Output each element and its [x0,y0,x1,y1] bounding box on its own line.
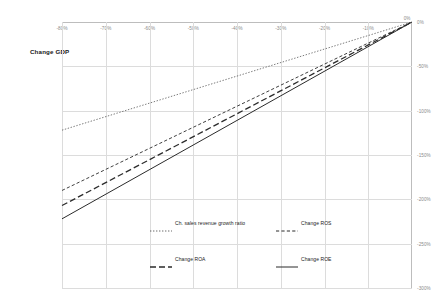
chart-container: Change GDP 0% -80%-70%-60%-50%-40%-30%-2… [0,0,434,304]
series-line [62,22,412,219]
y-axis-tick-label: -150% [417,153,431,158]
legend-swatch-dashed-long [150,256,172,262]
legend-label: Change ROA [175,256,206,262]
chart-legend: Ch. sales revenue growth ratioChange ROS… [150,218,420,278]
y-axis-tick-label: -200% [417,197,431,202]
legend-item[interactable]: Change ROA [150,256,206,262]
y-axis-tick-label: -300% [417,286,431,291]
gridline-horizontal [62,288,412,289]
series-line [62,22,412,130]
legend-swatch-dotted [150,220,172,226]
series-line [62,22,412,190]
legend-label: Ch. sales revenue growth ratio [175,220,245,226]
legend-label: Change ROE [301,256,332,262]
legend-label: Change ROS [301,220,332,226]
legend-item[interactable]: Ch. sales revenue growth ratio [150,220,245,226]
y-axis-tick-label: 0% [417,20,424,25]
y-axis-tick-label: -100% [417,108,431,113]
x-axis-tick-label-origin: 0% [404,16,411,21]
y-axis-tick-label: -50% [417,64,428,69]
legend-item[interactable]: Change ROS [276,220,332,226]
legend-item[interactable]: Change ROE [276,256,332,262]
legend-swatch-dashed [276,220,298,226]
legend-swatch-solid [276,256,298,262]
